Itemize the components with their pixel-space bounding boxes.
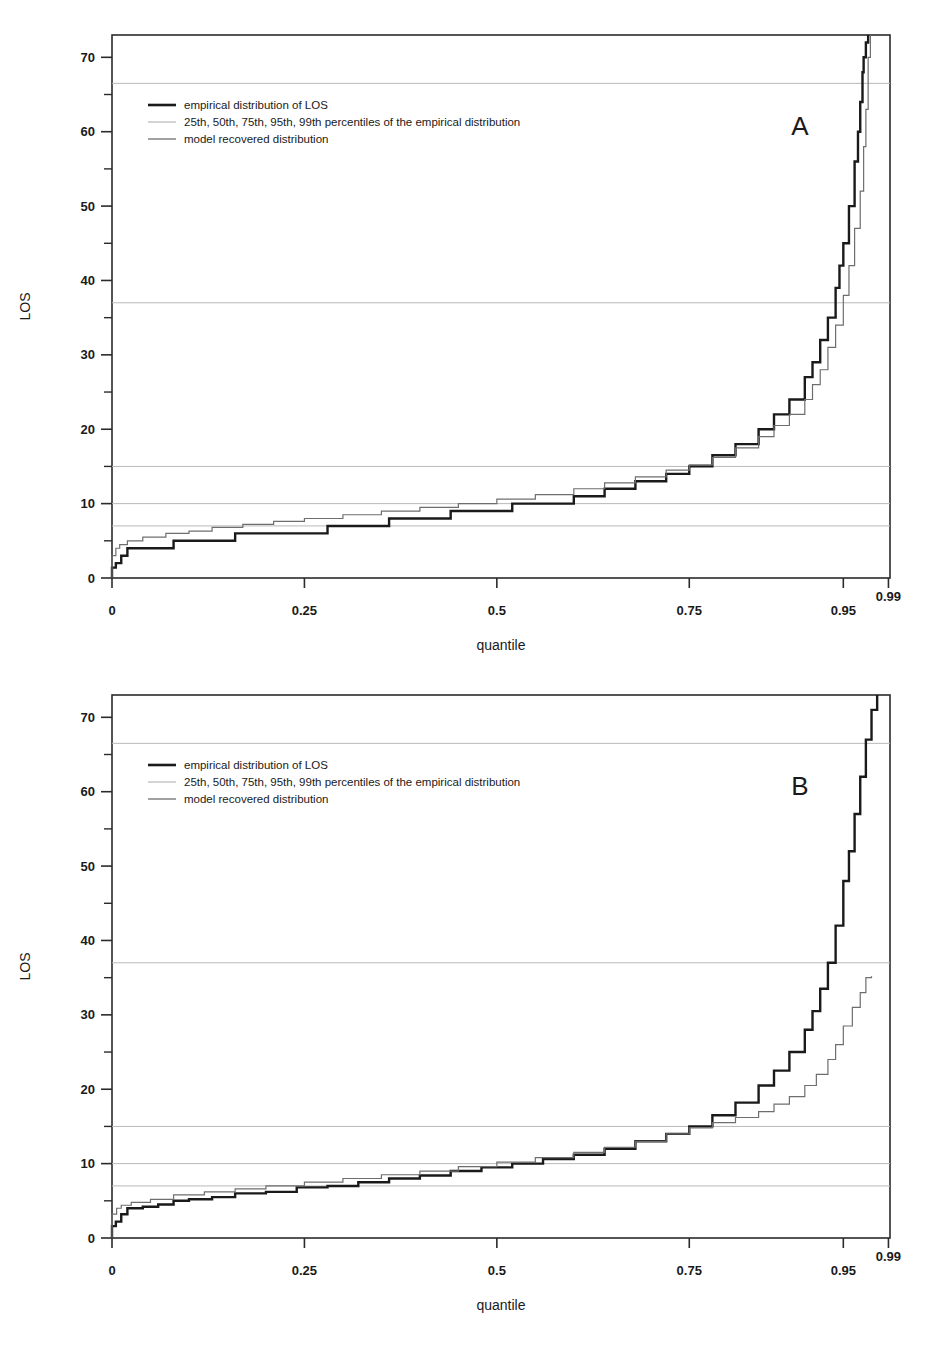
y-tick-label: 60 (81, 784, 95, 799)
panel-letter: B (791, 771, 808, 801)
y-axis-title: LOS (17, 952, 33, 980)
legend-label: model recovered distribution (184, 793, 328, 805)
panel-letter: A (791, 111, 809, 141)
x-tick-label: 0.5 (488, 603, 506, 618)
x-tick-label: 0.99 (876, 1249, 901, 1264)
y-axis-title: LOS (17, 292, 33, 320)
legend-label: model recovered distribution (184, 133, 328, 145)
x-axis-title: quantile (476, 1297, 525, 1313)
y-tick-label: 50 (81, 859, 95, 874)
y-tick-label: 60 (81, 124, 95, 139)
x-tick-label: 0.75 (677, 1263, 702, 1278)
x-tick-label: 0.25 (292, 1263, 317, 1278)
x-tick-label: 0 (108, 603, 115, 618)
y-tick-label: 40 (81, 933, 95, 948)
panel-a: 01020304050607000.250.50.750.950.99quant… (0, 0, 935, 660)
y-tick-label: 20 (81, 422, 95, 437)
legend-label: empirical distribution of LOS (184, 759, 328, 771)
y-tick-label: 0 (88, 571, 95, 586)
y-tick-label: 10 (81, 1156, 95, 1171)
x-tick-label: 0.95 (831, 1263, 856, 1278)
x-tick-label: 0.95 (831, 603, 856, 618)
legend-label: 25th, 50th, 75th, 95th, 99th percentiles… (184, 116, 520, 128)
y-tick-label: 40 (81, 273, 95, 288)
legend-label: empirical distribution of LOS (184, 99, 328, 111)
x-tick-label: 0.99 (876, 589, 901, 604)
figure-container: 01020304050607000.250.50.750.950.99quant… (0, 0, 935, 1349)
y-tick-label: 30 (81, 1007, 95, 1022)
y-tick-label: 50 (81, 199, 95, 214)
panel-b-plot: 01020304050607000.250.50.750.950.99quant… (0, 660, 935, 1320)
x-tick-label: 0.25 (292, 603, 317, 618)
y-tick-label: 10 (81, 496, 95, 511)
x-tick-label: 0.5 (488, 1263, 506, 1278)
x-axis-title: quantile (476, 637, 525, 653)
y-tick-label: 30 (81, 347, 95, 362)
panel-a-plot: 01020304050607000.250.50.750.950.99quant… (0, 0, 935, 660)
y-tick-label: 0 (88, 1231, 95, 1246)
x-tick-label: 0 (108, 1263, 115, 1278)
legend-label: 25th, 50th, 75th, 95th, 99th percentiles… (184, 776, 520, 788)
panel-b: 01020304050607000.250.50.750.950.99quant… (0, 660, 935, 1320)
x-tick-label: 0.75 (677, 603, 702, 618)
y-tick-label: 70 (81, 710, 95, 725)
y-tick-label: 70 (81, 50, 95, 65)
y-tick-label: 20 (81, 1082, 95, 1097)
